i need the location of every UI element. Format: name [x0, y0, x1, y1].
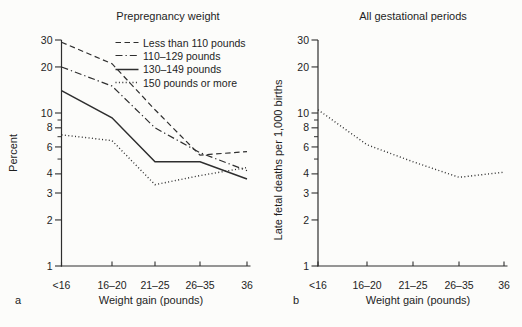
y-tick-label: 10	[41, 107, 53, 119]
x-tick-label: <16	[53, 279, 71, 291]
series-line-dotted	[318, 110, 504, 178]
legend-item: 110–129 pounds	[115, 49, 246, 62]
panel-b-title: All gestational periods	[359, 10, 467, 22]
x-tick-label: <16	[309, 279, 327, 291]
legend-label: 130–149 pounds	[143, 63, 221, 75]
x-tick-label: 21–25	[398, 279, 427, 291]
y-tick-label: 6	[303, 141, 309, 153]
y-tick-label: 20	[41, 61, 53, 73]
panel-a-x-axis-label: Weight gain (pounds)	[99, 294, 203, 306]
y-tick-label: 4	[303, 167, 309, 179]
legend-swatch-solid-line	[115, 66, 139, 73]
y-tick-label: 10	[297, 107, 309, 119]
panel-a-legend: Less than 110 pounds110–129 pounds130–14…	[115, 36, 246, 89]
x-tick-label: 21–25	[140, 279, 169, 291]
panel-a: 302010864321<1616–2021–2526–3536 Prepreg…	[0, 0, 261, 327]
legend-item: 150 pounds or more	[115, 76, 246, 89]
legend-label: Less than 110 pounds	[143, 37, 246, 49]
legend-swatch-dotted-line	[115, 79, 139, 86]
y-tick-label: 1	[47, 260, 53, 272]
y-tick-label: 6	[47, 141, 53, 153]
y-tick-label: 8	[47, 121, 53, 133]
y-tick-label: 3	[303, 187, 309, 199]
legend-label: 150 pounds or more	[143, 77, 237, 89]
legend-swatch-dash-dot-line	[115, 52, 139, 59]
x-tick-label: 26–35	[185, 279, 214, 291]
panel-b-x-axis-label: Weight gain (pounds)	[366, 294, 470, 306]
y-tick-label: 2	[47, 214, 53, 226]
legend-swatch-dashed-line	[115, 39, 139, 46]
x-tick-label: 16–20	[352, 279, 381, 291]
y-tick-label: 30	[41, 34, 53, 46]
plot-b-canvas: 302010864321<1616–2021–2526–3536	[261, 0, 522, 327]
legend-item: Less than 110 pounds	[115, 36, 246, 49]
panel-b-letter: b	[293, 294, 299, 306]
series-line-solid	[62, 91, 248, 179]
y-tick-label: 1	[303, 260, 309, 272]
figure-weight-gain-fetal-deaths: 302010864321<1616–2021–2526–3536 Prepreg…	[0, 0, 522, 327]
x-tick-label: 16–20	[97, 279, 126, 291]
panel-b-y-axis-label: Late fetal deaths per 1,000 births	[272, 80, 284, 241]
panel-a-letter: a	[15, 294, 21, 306]
x-tick-label: 36	[498, 279, 510, 291]
legend-item: 130–149 pounds	[115, 63, 246, 76]
panel-a-y-axis-label: Percent	[7, 134, 19, 172]
panel-b: 302010864321<1616–2021–2526–3536 All ges…	[261, 0, 522, 327]
y-tick-label: 3	[47, 187, 53, 199]
panel-a-title: Prepregnancy weight	[116, 10, 219, 22]
y-tick-label: 8	[303, 121, 309, 133]
y-tick-label: 20	[297, 61, 309, 73]
legend-label: 110–129 pounds	[143, 50, 220, 62]
y-tick-label: 30	[297, 34, 309, 46]
x-tick-label: 36	[241, 279, 253, 291]
y-tick-label: 2	[303, 214, 309, 226]
x-tick-label: 26–35	[444, 279, 473, 291]
series-line-dotted	[62, 135, 248, 185]
y-tick-label: 4	[47, 167, 53, 179]
